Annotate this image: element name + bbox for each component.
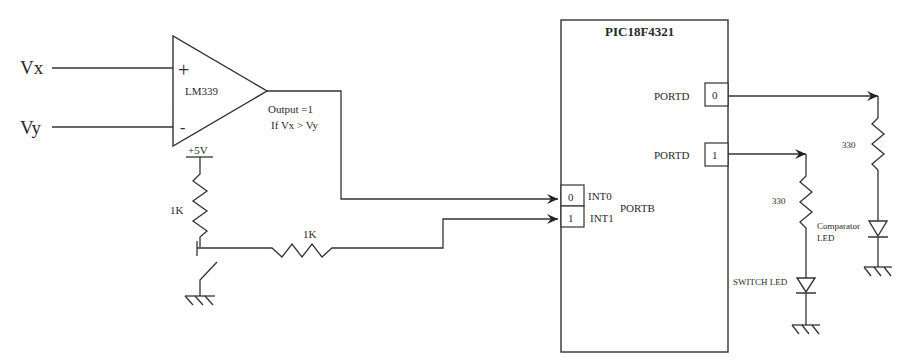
comparator-led-ground-icon — [864, 267, 892, 276]
int1-label: INT1 — [590, 212, 614, 224]
output-condition-line1: Output =1 — [268, 103, 313, 115]
series-resistor-label: 1K — [303, 228, 317, 240]
comparator-led-diode-icon — [868, 221, 888, 267]
comparator-led-label-line1: Comparator — [817, 221, 860, 231]
portd-pin0-bit: 0 — [712, 89, 718, 101]
pullup-resistor-label: 1K — [170, 204, 184, 216]
vx-label: Vx — [20, 57, 44, 78]
output-condition-line2: If Vx > Vy — [271, 119, 319, 131]
switch-led-ground-icon — [792, 325, 820, 334]
plus-input-sign: + — [178, 59, 189, 81]
comparator-part-label: LM339 — [185, 85, 219, 97]
switch-led-diode-icon — [796, 278, 816, 325]
comparator-lm339: + - LM339 — [173, 36, 267, 146]
portb-pin0-bit: 0 — [568, 191, 574, 203]
comparator-resistor-icon — [872, 96, 884, 221]
comparator-led-label-line2: LED — [817, 233, 835, 243]
switch-resistor-label: 330 — [772, 196, 786, 206]
portb-label: PORTB — [620, 202, 655, 214]
microcontroller-name: PIC18F4321 — [605, 24, 674, 39]
switch-ground-icon — [185, 296, 215, 305]
portb-pin1-bit: 1 — [568, 212, 574, 224]
push-switch-icon — [200, 262, 217, 296]
pic-microcontroller-block — [561, 20, 728, 352]
minus-input-sign: - — [180, 119, 185, 136]
switch-resistor-icon — [800, 154, 812, 278]
int0-label: INT0 — [588, 190, 612, 202]
circuit-diagram: Vx Vy + - LM339 Output =1 If Vx > Vy +5V… — [0, 0, 905, 364]
portd-pin0-port: PORTD — [654, 90, 689, 102]
comparator-resistor-label: 330 — [842, 140, 856, 150]
switch-led-label: SWITCH LED — [733, 277, 788, 287]
pullup-resistor-icon — [193, 157, 207, 247]
portd-pin1-bit: 1 — [712, 149, 718, 161]
supply-label: +5V — [188, 144, 208, 156]
series-resistor-wire — [197, 219, 558, 257]
portd-pin1-port: PORTD — [654, 149, 689, 161]
vy-label: Vy — [20, 117, 42, 138]
